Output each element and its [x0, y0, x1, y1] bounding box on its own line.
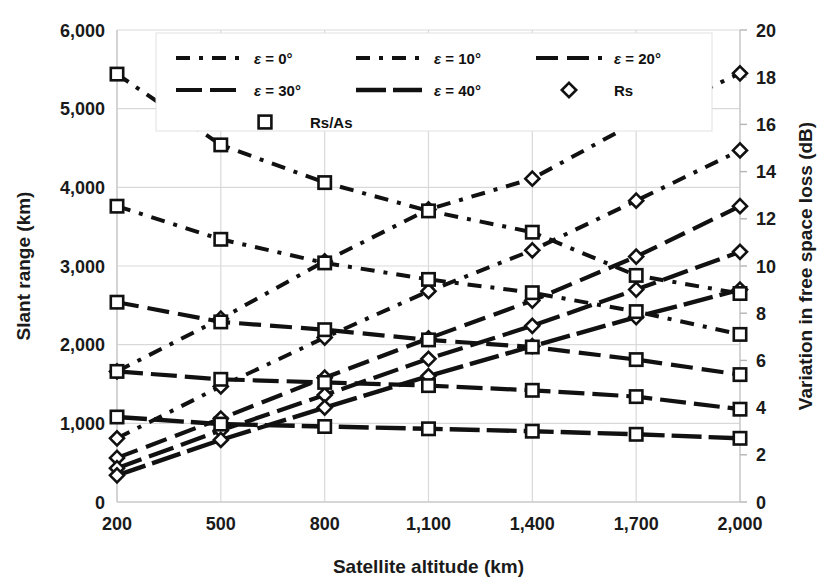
data-point-square	[319, 176, 331, 188]
legend-item-label: Rs/As	[310, 114, 353, 131]
y-axis-left-tick-label: 3,000	[60, 257, 105, 277]
data-point-square	[526, 287, 538, 299]
legend-item-label: Rs	[614, 82, 633, 99]
data-point-square	[215, 373, 227, 385]
y-axis-right-tick-label: 12	[756, 209, 776, 229]
y-axis-right-tick-label: 16	[756, 115, 776, 135]
data-point-square	[630, 305, 642, 317]
data-point-square	[734, 287, 746, 299]
data-point-square	[422, 334, 434, 346]
y-axis-right-tick-label: 14	[756, 162, 776, 182]
data-point-square	[734, 368, 746, 380]
x-axis-title: Satellite altitude (km)	[333, 556, 524, 577]
data-point-square	[526, 341, 538, 353]
x-axis-tick-label: 2,000	[717, 514, 762, 534]
data-point-square	[630, 353, 642, 365]
data-point-square	[215, 139, 227, 151]
y-axis-right-tick-label: 10	[756, 257, 776, 277]
data-point-square	[111, 296, 123, 308]
y-axis-right-tick-label: 2	[756, 445, 766, 465]
x-axis-tick-label: 200	[102, 514, 132, 534]
y-axis-left-tick-label: 4,000	[60, 178, 105, 198]
data-point-square	[111, 68, 123, 80]
y-axis-right-tick-label: 0	[756, 493, 766, 513]
y-axis-left-tick-label: 1,000	[60, 414, 105, 434]
data-point-square	[215, 316, 227, 328]
legend-item-label: ε = 30°	[254, 82, 301, 99]
data-point-square	[630, 269, 642, 281]
y-axis-left-tick-label: 2,000	[60, 335, 105, 355]
y-axis-right-tick-label: 8	[756, 304, 766, 324]
data-point-square	[319, 324, 331, 336]
y-axis-left-tick-label: 5,000	[60, 99, 105, 119]
x-axis-tick-label: 500	[206, 514, 236, 534]
chart-canvas: 01,0002,0003,0004,0005,0006,000024681012…	[0, 0, 834, 585]
y-axis-left-tick-label: 6,000	[60, 21, 105, 41]
data-point-square	[526, 226, 538, 238]
data-point-square	[319, 257, 331, 269]
y-axis-left-title: Slant range (km)	[13, 192, 34, 341]
y-axis-right-title: Variation in free space loss (dB)	[795, 122, 816, 410]
y-axis-right-tick-label: 6	[756, 351, 766, 371]
chart-legend: ε = 0°ε = 10°ε = 20°ε = 30°ε = 40°RsRs/A…	[156, 33, 712, 131]
data-point-square	[111, 411, 123, 423]
data-point-square	[734, 328, 746, 340]
data-point-square	[111, 200, 123, 212]
data-point-square	[215, 418, 227, 430]
data-point-square	[734, 432, 746, 444]
y-axis-left-tick-label: 0	[95, 493, 105, 513]
legend-item-label: ε = 40°	[434, 82, 481, 99]
x-axis-tick-label: 1,700	[614, 514, 659, 534]
y-axis-right-tick-label: 18	[756, 68, 776, 88]
legend-item-label: ε = 20°	[614, 50, 661, 67]
data-point-square	[630, 428, 642, 440]
data-point-square	[422, 205, 434, 217]
data-point-square	[422, 379, 434, 391]
data-point-square	[526, 425, 538, 437]
legend-square-swatch	[259, 116, 272, 129]
data-point-square	[422, 423, 434, 435]
y-axis-right-tick-label: 20	[756, 21, 776, 41]
legend-item-label: ε = 0°	[254, 50, 293, 67]
data-point-square	[630, 390, 642, 402]
data-point-square	[215, 233, 227, 245]
chart-figure: 01,0002,0003,0004,0005,0006,000024681012…	[0, 0, 834, 585]
x-axis-tick-label: 1,100	[406, 514, 451, 534]
y-axis-right-tick-label: 4	[756, 398, 766, 418]
legend-item-label: ε = 10°	[434, 50, 481, 67]
x-axis-tick-label: 1,400	[510, 514, 555, 534]
data-point-square	[734, 403, 746, 415]
data-point-square	[526, 384, 538, 396]
data-point-square	[319, 420, 331, 432]
data-point-square	[319, 376, 331, 388]
data-point-square	[422, 273, 434, 285]
data-point-square	[111, 365, 123, 377]
x-axis-tick-label: 800	[310, 514, 340, 534]
